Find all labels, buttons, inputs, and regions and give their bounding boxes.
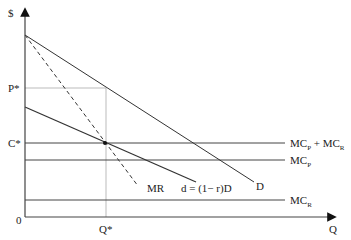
q-star-label: Q* — [99, 223, 112, 235]
mr-label: MR — [147, 182, 165, 194]
d-label: d = (1− r)D — [181, 182, 232, 195]
x-axis-label: Q — [329, 223, 337, 235]
mcp-plus-mcr-label: MCP + MCR — [290, 137, 345, 152]
origin-label: 0 — [16, 214, 22, 226]
equilibrium-point — [103, 141, 107, 145]
mcr-label: MCR — [290, 194, 312, 209]
p-star-label: P* — [8, 82, 20, 94]
c-star-label: C* — [8, 137, 21, 149]
marginal-revenue-curve — [25, 35, 138, 186]
demand-curve-d — [25, 107, 196, 182]
economics-diagram: $ Q 0 P* C* Q* D MR d = (1− r)D MCP + MC… — [0, 0, 351, 240]
mcp-label: MCP — [290, 154, 311, 169]
demand-D-label: D — [256, 180, 264, 192]
y-axis-label: $ — [8, 7, 14, 19]
